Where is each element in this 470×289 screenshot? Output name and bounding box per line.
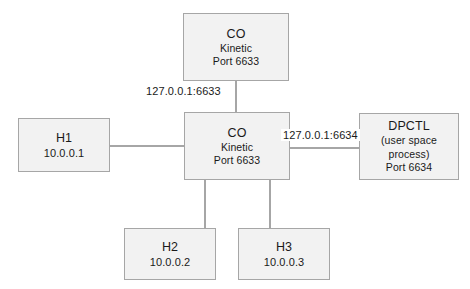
node-co-main[interactable]: CO Kinetic Port 6633 [184, 112, 290, 180]
node-dpctl[interactable]: DPCTL (user space process) Port 6634 [359, 113, 459, 180]
node-co-main-port: Port 6633 [214, 154, 260, 167]
node-dpctl-title: DPCTL [388, 118, 429, 134]
node-co-top[interactable]: CO Kinetic Port 6633 [183, 13, 289, 81]
edge-label-co-top-to-co-main: 127.0.0.1:6633 [144, 85, 223, 97]
node-dpctl-port: Port 6634 [386, 161, 432, 174]
node-h1-address: 10.0.0.1 [44, 146, 85, 160]
node-h1[interactable]: H1 10.0.0.1 [18, 118, 110, 172]
diagram-canvas: CO Kinetic Port 6633 CO Kinetic Port 663… [0, 0, 470, 289]
node-h2[interactable]: H2 10.0.0.2 [124, 228, 216, 280]
node-h3-title: H3 [276, 239, 292, 255]
node-co-top-port: Port 6633 [213, 55, 259, 68]
node-h3-address: 10.0.0.3 [264, 255, 305, 269]
node-h3[interactable]: H3 10.0.0.3 [238, 228, 330, 280]
node-h2-title: H2 [162, 239, 178, 255]
node-dpctl-line2: (user space [381, 134, 437, 147]
node-co-main-title: CO [228, 125, 247, 141]
node-co-top-subtitle: Kinetic [220, 42, 252, 55]
edge-label-co-main-to-dpctl: 127.0.0.1:6634 [281, 129, 360, 141]
node-co-main-subtitle: Kinetic [221, 141, 253, 154]
node-h1-title: H1 [56, 130, 72, 146]
node-h2-address: 10.0.0.2 [150, 255, 191, 269]
node-co-top-title: CO [227, 26, 246, 42]
node-dpctl-line3: process) [388, 148, 429, 161]
